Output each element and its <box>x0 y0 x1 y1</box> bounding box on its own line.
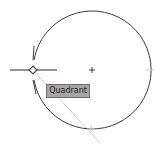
center-marker-icon <box>89 67 95 73</box>
snap-tooltip: Quadrant <box>46 84 90 98</box>
drawing-canvas[interactable] <box>0 0 161 151</box>
circle-arc-segment-upper <box>33 46 34 60</box>
quadrant-marker-bottom-icon <box>87 125 95 133</box>
tracking-line <box>33 70 100 143</box>
